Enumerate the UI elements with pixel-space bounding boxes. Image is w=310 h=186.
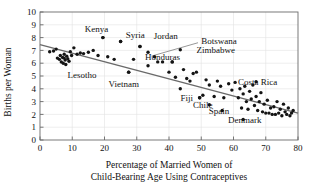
- data-point: [179, 87, 182, 90]
- data-point: [70, 54, 73, 57]
- data-point: [195, 70, 198, 73]
- data-point: [282, 102, 285, 105]
- point-label: Lesotho: [67, 70, 96, 80]
- data-point: [291, 109, 294, 112]
- data-point: [96, 54, 99, 57]
- data-point: [208, 83, 211, 86]
- data-point: [272, 105, 275, 108]
- data-point: [261, 110, 264, 113]
- data-point: [75, 53, 78, 56]
- data-point: [67, 60, 70, 63]
- data-point: [106, 55, 109, 58]
- point-label: Spain: [209, 106, 230, 116]
- data-point: [69, 50, 72, 53]
- data-point: [254, 95, 257, 98]
- data-point: [245, 100, 248, 103]
- data-point: [287, 106, 290, 109]
- data-point: [233, 81, 236, 84]
- data-point: [219, 85, 222, 88]
- point-label: Denmark: [228, 115, 262, 125]
- data-point: [112, 58, 115, 61]
- data-point: [64, 63, 67, 66]
- data-point: [237, 96, 240, 99]
- data-point: [274, 113, 277, 116]
- data-point: [280, 114, 283, 117]
- data-point: [227, 82, 230, 85]
- data-point: [132, 58, 135, 61]
- y-tick-label: 10: [27, 7, 37, 17]
- y-tick-label: 9: [32, 20, 37, 30]
- data-point: [266, 99, 269, 102]
- data-point: [216, 79, 219, 82]
- data-point: [253, 104, 256, 107]
- y-tick-label: 0: [32, 135, 37, 145]
- y-tick-label: 2: [32, 110, 37, 120]
- point-label: Jordan: [154, 31, 178, 41]
- data-point-highlighted: [101, 36, 104, 39]
- data-point: [204, 78, 207, 81]
- data-point: [72, 46, 75, 49]
- data-point: [167, 70, 170, 73]
- data-point: [248, 90, 251, 93]
- data-point-highlighted: [138, 45, 141, 48]
- y-tick-label: 3: [32, 97, 37, 107]
- data-point: [275, 100, 278, 103]
- data-point: [54, 47, 57, 50]
- data-point: [48, 50, 51, 53]
- data-point: [262, 102, 265, 105]
- data-point-highlighted: [127, 70, 130, 73]
- scatter-plot-figure: KenyaSyriaJordanBotswanaZimbabweHonduras…: [0, 0, 310, 186]
- data-point: [92, 49, 95, 52]
- x-tick-label: 30: [132, 143, 142, 153]
- data-point: [201, 94, 204, 97]
- data-point: [230, 88, 233, 91]
- x-tick-label: 50: [197, 143, 207, 153]
- data-point: [277, 111, 280, 114]
- point-label: Vietnam: [109, 79, 139, 89]
- y-tick-label: 8: [32, 33, 37, 43]
- x-axis-tick-labels: 01020304050607080: [38, 143, 303, 153]
- data-point: [258, 100, 261, 103]
- x-tick-label: 20: [100, 143, 110, 153]
- x-tick-label: 70: [261, 143, 271, 153]
- data-point: [267, 111, 270, 114]
- y-axis-title: Births per Woman: [3, 47, 13, 116]
- x-tick-label: 40: [165, 143, 175, 153]
- point-label: Honduras: [145, 52, 180, 62]
- y-tick-label: 7: [32, 46, 37, 56]
- point-label: Kenya: [85, 24, 109, 34]
- x-tick-label: 60: [229, 143, 239, 153]
- data-point: [185, 77, 188, 80]
- x-tick-label: 10: [68, 143, 78, 153]
- point-label: Fiji: [180, 93, 193, 103]
- data-point: [87, 51, 90, 54]
- data-point: [212, 95, 215, 98]
- data-point: [271, 113, 274, 116]
- x-tick-label: 0: [38, 143, 43, 153]
- data-point: [191, 72, 194, 75]
- y-tick-label: 4: [32, 84, 37, 94]
- data-point: [264, 111, 267, 114]
- point-labels: KenyaSyriaJordanBotswanaZimbabweHonduras…: [67, 24, 277, 126]
- y-tick-label: 5: [32, 71, 37, 81]
- data-point: [241, 92, 244, 95]
- point-label: Costa Rica: [238, 77, 277, 87]
- data-point: [246, 108, 249, 111]
- data-point: [269, 106, 272, 109]
- y-axis-tick-labels: 012345678910: [27, 7, 37, 145]
- data-point: [285, 113, 288, 116]
- data-point: [256, 109, 259, 112]
- data-point-highlighted: [62, 56, 65, 59]
- data-point: [146, 64, 149, 67]
- y-tick-label: 1: [32, 122, 37, 132]
- data-point: [238, 87, 241, 90]
- x-tick-label: 80: [294, 143, 304, 153]
- x-axis-title-line2: Child-Bearing Age Using Contraceptives: [91, 172, 248, 182]
- data-point: [182, 68, 185, 71]
- y-tick-label: 6: [32, 58, 37, 68]
- data-point-highlighted: [119, 40, 122, 43]
- data-point: [250, 97, 253, 100]
- data-point: [82, 52, 85, 55]
- point-label: Zimbabwe: [196, 45, 235, 55]
- data-point: [174, 76, 177, 79]
